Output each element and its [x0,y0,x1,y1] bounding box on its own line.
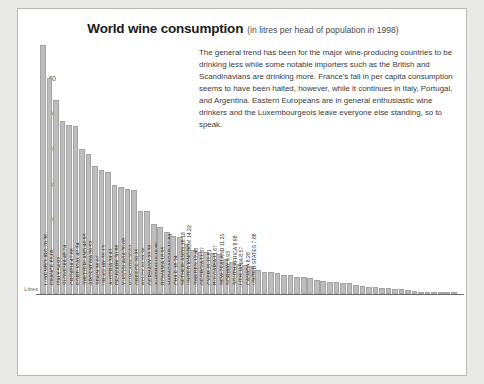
bar-sweden: SWEDEN 12.48 [190,250,196,294]
bar-romania: ROMANIA 18.95 [157,227,163,294]
bar-series: LUXEMBOURG 70.36FRANCE 61.09ITALY 54.92S… [40,39,464,294]
bar-bulgaria: BULGARIA 11.67 [210,253,216,294]
bar-estonia [294,277,300,294]
bar-italy: ITALY 54.92 [53,100,59,295]
bar-uzbekistan [255,270,261,294]
bar-slovenia: SLOVENIA 48.74 [60,121,66,294]
bar-moldova [334,282,340,294]
below-axis-labels [40,295,464,376]
bar-canada: CANADA 8.28 [242,265,248,294]
bar-luxembourg: LUXEMBOURG 70.36 [40,45,46,294]
bar-hungary: HUNGARY 29.54 [125,189,131,294]
bar-lithuania: LITHUANIA 8.57 [236,264,242,294]
bar-norway: NORWAY 9.93 [223,259,229,294]
chart-subtitle: (in litres per head of population in 199… [247,25,398,35]
bar-macedonia [301,277,307,294]
bar-paraguay [347,283,353,294]
bar-tajikistan [340,283,346,294]
bar-japan [353,285,359,294]
bar-chile: CHILE 16.24 [170,236,176,294]
bar-netherlands: NETHERLANDS 16.18 [177,237,183,294]
bar-uruguay: URUGUAY 35.13 [99,170,105,294]
bar-lebanon [281,275,287,294]
bar-croatia: CROATIA 47.66 [66,125,72,294]
bar-cyprus: CYPRUS 11.81 [203,252,209,294]
bar-south-africa: SOUTH AFRICA 8.98 [229,262,235,294]
bar-armenia [360,286,366,294]
bar-czech-republic [268,272,274,294]
bar-azerbaijan [327,282,333,294]
bar-new-zealand: NEW ZEALAND 11.21 [216,254,222,294]
chart-panel: World wine consumption(in litres per hea… [17,8,467,376]
bar-bosnia-herzeg [307,278,313,294]
y-axis-unit-label: Litres [18,286,38,292]
bar-russia [314,280,320,294]
bar-united-kingdom: UNITED KINGDOM 14.22 [184,244,190,294]
bar-madagascar: MADAGASCAR 17.64 [164,232,170,294]
bar-portugal: PORTUGAL 47.34 [73,126,79,294]
bar-france: FRANCE 61.09 [47,78,53,294]
bar-belarus [320,281,326,294]
bar-united-states: UNITED STATES 7.88 [249,266,255,294]
bar-switzerland: SWITZERLAND 40.93 [79,149,85,294]
bar-australia: AUSTRALIA 19.89 [151,224,157,294]
bar-ireland [275,273,281,294]
bar-slovakia [288,275,294,294]
bar-germany: GERMANY 23.32 [144,211,150,294]
bar-kazakhstan [373,287,379,294]
chart-header: World wine consumption(in litres per hea… [18,19,467,37]
bar-greece: GREECE 29.25 [131,190,137,294]
bar-belgium: BELGIUM 23.39 [138,211,144,294]
bar-finland [262,272,268,294]
page-title: World wine consumption [87,21,243,36]
bar-argentina: ARGENTINA 39.52 [86,154,92,294]
bar-spain: SPAIN 36.07 [92,166,98,294]
bar-denmark: DENMARK 30.86 [112,185,118,294]
bar-yugoslavia: YUGOSLAVIA 30.08 [118,187,124,294]
bar-tunisia [366,287,372,294]
bar-georgia: GEORGIA 11.87 [197,252,203,294]
bar-austria: AUSTRIA 34.41 [105,172,111,294]
